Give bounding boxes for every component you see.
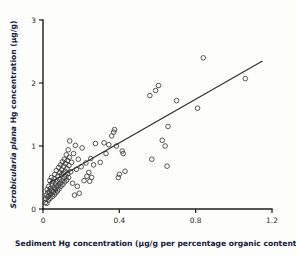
data-point-marker	[160, 138, 165, 143]
data-point-marker	[107, 142, 112, 147]
y-tick-label: 0	[31, 205, 36, 214]
x-axis-title: Sediment Hg concentration (µg/g per perc…	[15, 239, 296, 248]
data-point-marker	[72, 193, 77, 198]
data-point-marker	[87, 170, 92, 175]
data-point-marker	[195, 106, 200, 111]
data-point-marker	[70, 181, 75, 186]
data-point-marker	[163, 144, 168, 149]
data-point-marker	[69, 160, 74, 165]
y-tick-label: 1	[31, 142, 36, 151]
x-tick-label: 1.2	[266, 216, 278, 225]
data-point-marker	[73, 143, 78, 148]
plot-canvas: 0123 00.40.81.2 Sediment Hg concentratio…	[0, 0, 296, 256]
data-point-marker	[116, 175, 121, 180]
data-point-marker	[201, 56, 206, 61]
data-point-marker	[67, 139, 72, 144]
data-point-marker	[64, 153, 69, 158]
data-point-marker	[82, 178, 87, 183]
data-point-marker	[77, 191, 82, 196]
y-axis-title-species: Scrobicularia plana	[9, 126, 18, 208]
scatter-plot-figure: 0123 00.40.81.2 Sediment Hg concentratio…	[0, 0, 296, 256]
x-tick-label: 0.4	[113, 216, 125, 225]
data-point-marker	[174, 98, 179, 103]
data-points-group	[43, 56, 248, 206]
data-point-marker	[71, 151, 76, 156]
x-axis-ticks: 00.40.81.2	[41, 209, 278, 225]
data-point-marker	[75, 184, 80, 189]
y-axis-title-rest: Hg concentration (µg/g)	[9, 21, 18, 126]
data-point-marker	[117, 172, 122, 177]
data-point-marker	[89, 175, 94, 180]
data-point-marker	[102, 141, 107, 146]
data-point-marker	[153, 88, 158, 93]
y-axis-ticks: 0123	[31, 16, 43, 214]
y-axis-title: Scrobicularia plana Hg concentration (µg…	[9, 21, 18, 209]
x-tick-label: 0	[41, 216, 46, 225]
regression-line	[49, 61, 263, 183]
data-point-marker	[166, 124, 171, 129]
data-point-marker	[148, 93, 153, 98]
y-tick-label: 2	[31, 79, 36, 88]
data-point-marker	[156, 83, 161, 88]
data-point-marker	[91, 163, 96, 168]
data-point-marker	[149, 157, 154, 162]
data-point-marker	[66, 147, 71, 152]
data-point-marker	[123, 169, 128, 174]
data-point-marker	[93, 141, 98, 146]
x-tick-label: 0.8	[190, 216, 202, 225]
axes-group	[43, 20, 272, 209]
data-point-marker	[76, 157, 81, 162]
data-point-marker	[98, 160, 103, 165]
data-point-marker	[80, 146, 85, 151]
y-tick-label: 3	[31, 16, 36, 25]
data-point-marker	[243, 76, 248, 81]
data-point-marker	[165, 164, 170, 169]
